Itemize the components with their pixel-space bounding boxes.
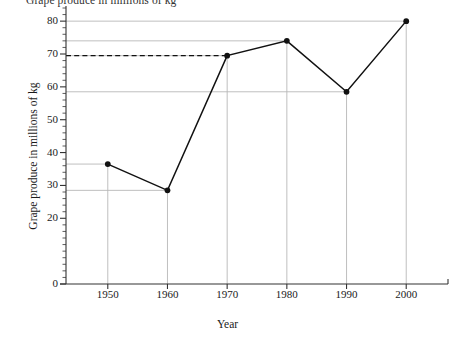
x-tick-label: 1990 xyxy=(324,289,370,300)
data-point-marker[interactable] xyxy=(403,18,409,24)
line-chart: Grape produce in millions of kg Grape pr… xyxy=(0,0,455,343)
x-tick-label: 2000 xyxy=(383,289,429,300)
data-point-marker[interactable] xyxy=(165,187,171,193)
data-point-marker[interactable] xyxy=(224,53,230,59)
data-point-marker[interactable] xyxy=(344,89,350,95)
y-tick-label: 60 xyxy=(32,81,58,92)
y-tick-label: 50 xyxy=(32,114,58,125)
data-line-series xyxy=(108,21,406,190)
y-tick-label: 80 xyxy=(32,15,58,26)
y-tick-label: 20 xyxy=(32,212,58,223)
y-tick-label: 30 xyxy=(32,179,58,190)
x-tick-label: 1950 xyxy=(85,289,131,300)
y-tick-label: 0 xyxy=(32,278,58,289)
x-tick-label: 1960 xyxy=(144,289,190,300)
x-tick-label: 1980 xyxy=(264,289,310,300)
data-point-marker[interactable] xyxy=(105,161,111,167)
y-tick-label: 40 xyxy=(32,147,58,158)
x-tick-label: 1970 xyxy=(204,289,250,300)
data-point-marker[interactable] xyxy=(284,38,290,44)
y-tick-label: 70 xyxy=(32,48,58,59)
